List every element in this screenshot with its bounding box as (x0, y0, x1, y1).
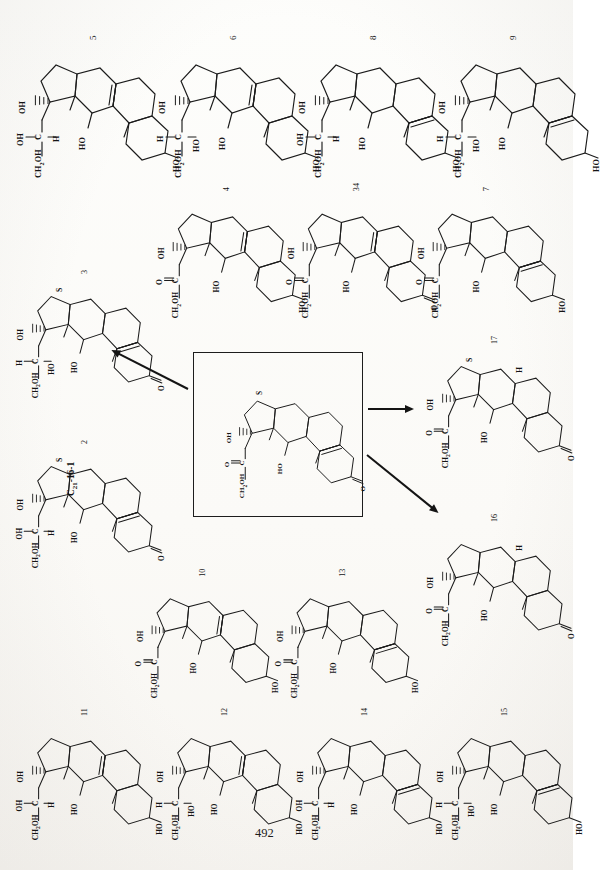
label-carbon: C (31, 529, 39, 534)
structure-number-12: 12 (220, 708, 229, 716)
label-h: H (155, 802, 163, 808)
structure-number-3: 3 (80, 270, 89, 274)
label-ch2oh: CH2OH (291, 673, 300, 698)
molecule-2: CH2OHCOHHOHHOOS2 (8, 435, 161, 570)
label-oxygen: O (425, 608, 433, 614)
label-carbon: C (454, 134, 463, 140)
label-ch2oh: CH2OH (151, 673, 160, 698)
label-ketone-o: O (157, 385, 165, 391)
label-carbon: C (34, 134, 43, 140)
label-carbon: C (151, 660, 159, 665)
structure-number-16: 16 (490, 514, 499, 522)
structure-16: CH2OHCOOHHOOH16 (418, 513, 571, 648)
label-ch2oh: CH2OH (31, 814, 41, 840)
label-c11-ho: HO (211, 803, 219, 815)
label-oh: OH (16, 133, 25, 146)
structure-number-7: 7 (482, 187, 491, 191)
molecule-17: CH2OHCOOHHOOHS17 (418, 335, 571, 470)
molecule-16: CH2OHCOOHHOOH16 (418, 513, 571, 648)
structure-number-8: 8 (368, 36, 378, 41)
label-c5-h: H (515, 545, 523, 551)
label-h: H (48, 802, 56, 808)
label-c17-oh: OH (437, 771, 445, 783)
label-c11-ho: HO (190, 662, 198, 673)
label-ketone-o: O (359, 486, 367, 492)
label-h: H (332, 136, 341, 142)
label-oxygen: O (425, 430, 433, 436)
label-c11-ho: HO (212, 280, 220, 292)
label-ch2oh: CH2OH (314, 149, 325, 178)
label-carbon: C (238, 460, 246, 465)
label-c17-oh: OH (157, 247, 165, 259)
label-ch2oh: CH2OH (31, 372, 41, 398)
structure-9: CH2OHCHHOOHHOHO9 (428, 30, 598, 180)
label-ketone-o: O (157, 555, 165, 561)
label-carbon: C (171, 801, 179, 806)
label-ho: HO (472, 139, 481, 152)
molecule-15: CH2OHCHHOOHHOHO15 (428, 707, 581, 842)
center-structure: CH2OHCOOHHOOS (216, 371, 362, 500)
label-h: H (52, 136, 61, 142)
label-c11-ho: HO (342, 280, 350, 292)
label-oh: OH (296, 133, 305, 146)
label-c17-oh: OH (17, 329, 25, 341)
label-ch2oh: CH2OH (454, 149, 465, 178)
label-c3-ho: HO (576, 823, 584, 835)
label-h: H (48, 530, 56, 536)
side-chain-bonds (0, 265, 51, 400)
label-carbon: C (291, 660, 299, 665)
label-oh: OH (15, 800, 23, 812)
label-carbon: C (441, 429, 449, 434)
molecule-9: CH2OHCHHOOHHOHO9 (428, 30, 598, 180)
label-carbon: C (441, 607, 449, 612)
label-c11-ho: HO (498, 137, 507, 150)
label-ch2oh: CH2OH (441, 620, 451, 646)
label-c17-oh: OH (137, 631, 145, 642)
structure-3: CH2OHCHHOOHHOOS3 (8, 265, 161, 400)
stereo-label-2: S (55, 458, 64, 462)
structure-2: CH2OHCOHHOHHOOS2 (8, 435, 161, 570)
label-c11-ho: HO (78, 137, 87, 150)
label-ketone-o: O (567, 455, 575, 461)
structure-13: CH2OHCOOHHOHO13 (268, 568, 418, 700)
structure-15: CH2OHCHHOOHHOHO15 (428, 707, 581, 842)
label-h: H (156, 136, 165, 142)
label-oxygen: O (135, 661, 143, 667)
label-h: H (436, 136, 445, 142)
label-ho: HO (48, 363, 56, 375)
label-c11-ho: HO (481, 431, 489, 443)
label-ch2oh: CH2OH (238, 474, 247, 499)
label-c11-ho: HO (481, 609, 489, 621)
label-carbon: C (31, 801, 39, 806)
label-ch2oh: CH2OH (441, 442, 451, 468)
label-oh: OH (15, 528, 23, 540)
structure-number-14: 14 (360, 708, 369, 716)
structure-number-13: 13 (338, 569, 347, 577)
label-c11-ho: HO (71, 531, 79, 543)
label-ch2oh: CH2OH (171, 814, 181, 840)
label-carbon: C (172, 278, 180, 284)
label-carbon: C (174, 134, 183, 140)
molecule-center: CH2OHCOOHHOOS (216, 371, 362, 500)
label-ch2oh: CH2OH (34, 149, 45, 178)
structure-10: CH2OHCOOHHOHO10 (128, 568, 278, 700)
arrow-to-17-head (405, 405, 414, 413)
structure-7: CH2OHCOOHHOHO7 (408, 182, 564, 320)
label-c5-h: H (515, 367, 523, 373)
label-c11-ho: HO (218, 137, 227, 150)
label-c11-ho: HO (330, 662, 338, 673)
label-carbon: C (451, 801, 459, 806)
label-ho: HO (188, 805, 196, 817)
label-oxygen: O (285, 279, 293, 285)
label-c17-oh: OH (158, 101, 167, 114)
label-c3-ho: HO (592, 159, 601, 172)
label-c17-oh: OH (427, 577, 435, 589)
label-c11-ho: HO (71, 361, 79, 373)
label-c17-oh: OH (297, 771, 305, 783)
label-carbon: C (302, 278, 310, 284)
label-c11-ho: HO (491, 803, 499, 815)
label-c11-ho: HO (276, 463, 284, 474)
structure-number-11: 11 (80, 708, 89, 716)
label-carbon: C (432, 278, 440, 284)
stereo-label-17: S (465, 358, 474, 362)
